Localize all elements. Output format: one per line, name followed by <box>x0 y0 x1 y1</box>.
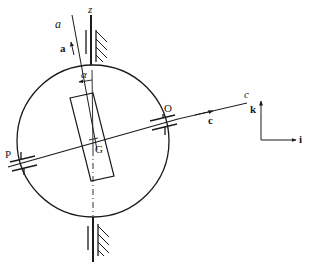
rotor-diagram: a a z α O P G c c k i <box>0 0 310 272</box>
label-point-O: O <box>164 102 172 114</box>
alpha-angle-indicator <box>79 80 92 82</box>
bearing-O <box>150 114 177 135</box>
a-axis-line <box>72 15 97 150</box>
z-axis-line <box>92 70 93 150</box>
label-angle-alpha: α <box>81 68 87 80</box>
label-point-P: P <box>5 148 11 160</box>
label-point-G: G <box>95 143 103 155</box>
label-vector-c: c <box>208 114 213 126</box>
label-axis-a: a <box>55 17 61 31</box>
label-vector-a: a <box>60 42 66 54</box>
bearing-P <box>10 152 37 175</box>
label-vector-k: k <box>250 103 257 115</box>
tilted-body <box>70 93 114 181</box>
top-support <box>86 15 107 65</box>
bottom-support <box>88 217 109 262</box>
label-axis-c: c <box>244 88 249 100</box>
label-vector-i: i <box>299 133 302 145</box>
center-G-mark <box>89 138 98 140</box>
a-vector-arrow <box>71 42 74 55</box>
label-axis-z: z <box>87 3 93 15</box>
reference-frame <box>261 101 296 140</box>
